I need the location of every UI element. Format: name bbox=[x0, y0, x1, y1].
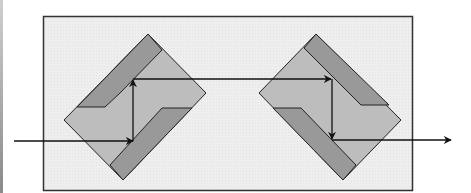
optical-diagram bbox=[0, 0, 471, 193]
